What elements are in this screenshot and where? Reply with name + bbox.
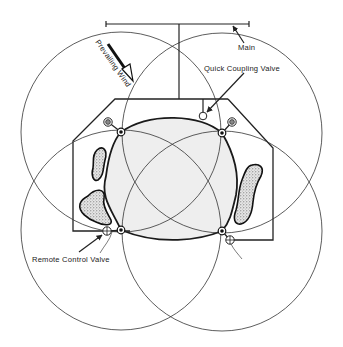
remote-control-valve-bottom-right <box>226 236 234 244</box>
quick-coupling-valve <box>199 112 207 120</box>
remote-control-valve-top-left <box>104 118 112 126</box>
sprinkler-head-bottom-right <box>218 227 226 235</box>
prevailing-wind-label: Prevailing Wind <box>93 38 132 89</box>
remote-control-valve-top-right <box>228 118 236 126</box>
remote-control-valve-label: Remote Control Valve <box>32 255 110 264</box>
sprinkler-head-bottom-left <box>117 226 125 234</box>
quick-coupling-valve-label: Quick Coupling Valve <box>204 64 280 73</box>
sprinkler-head-top-left <box>117 128 125 136</box>
remote-control-leader-arrow <box>79 235 102 252</box>
main-leader-arrow <box>233 26 244 43</box>
sprinkler-head-top-right <box>218 129 226 137</box>
shrub-bed-right <box>234 164 262 224</box>
irrigation-diagram: Main Quick Coupling Valve Remote Control… <box>0 0 343 347</box>
remote-control-valve-bottom-left <box>103 227 111 235</box>
main-label: Main <box>238 43 255 52</box>
lawn-area <box>104 118 237 240</box>
shrub-bed-upper-left <box>92 148 106 180</box>
rcv-wire-bottom-right <box>231 244 242 259</box>
